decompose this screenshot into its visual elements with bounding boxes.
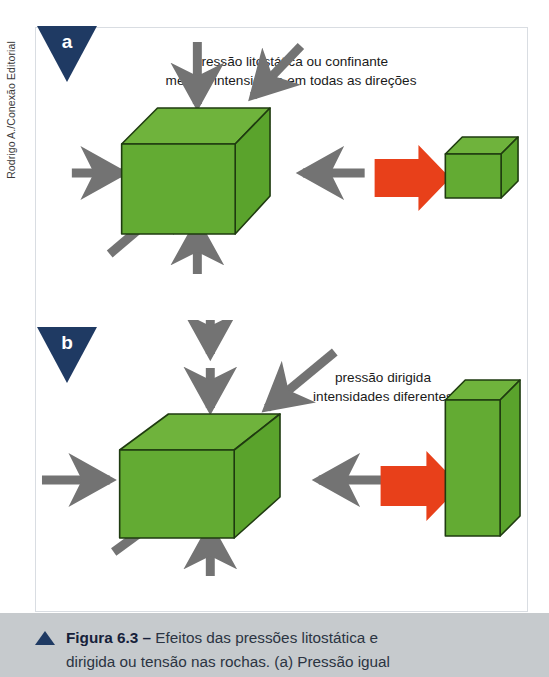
result-cube-front	[445, 154, 501, 198]
image-credit-text: Rodrigo A./Conexão Editorial	[5, 41, 17, 179]
figure-caption-title: Figura 6.3	[66, 629, 138, 646]
panel-b-diagram	[36, 320, 527, 612]
figure-caption-dash: –	[138, 629, 151, 646]
panel-a-diagram	[36, 28, 527, 320]
panel-b-result-prism	[445, 380, 520, 536]
panel-a-result-arrow	[375, 145, 451, 211]
panel-b-cube	[120, 414, 280, 538]
image-credit: Rodrigo A./Conexão Editorial	[0, 18, 22, 218]
figure-caption: Figura 6.3 – Efeitos das pressões litost…	[66, 626, 496, 674]
prism-front	[445, 400, 500, 536]
figure-frame: a pressão litostática ou confinante mesm…	[35, 27, 528, 612]
figure-caption-text: Figura 6.3 – Efeitos das pressões litost…	[66, 626, 496, 674]
cube-front	[122, 144, 236, 234]
arrow-top-right-diagonal	[253, 46, 301, 96]
panel-a-result-cube	[445, 137, 518, 198]
red-arrow-icon	[375, 145, 451, 211]
panel-a: a pressão litostática ou confinante mesm…	[36, 28, 527, 320]
prism-side	[500, 380, 520, 536]
figure-caption-band: Figura 6.3 – Efeitos das pressões litost…	[0, 613, 549, 677]
panel-b-svg	[36, 320, 527, 612]
panel-b: b pressão dirigida intensidades diferent…	[36, 320, 527, 612]
triangle-up-icon	[35, 631, 55, 645]
panel-a-cube	[122, 108, 270, 234]
cube-front	[120, 450, 235, 538]
panel-a-svg	[36, 28, 527, 320]
figure-caption-line1: Efeitos das pressões litostática e	[151, 629, 378, 646]
figure-page: Rodrigo A./Conexão Editorial a pressão l…	[0, 0, 549, 677]
arrow-top-right-diagonal-long	[267, 352, 335, 408]
figure-caption-line2: dirigida ou tensão nas rochas. (a) Press…	[66, 650, 496, 674]
